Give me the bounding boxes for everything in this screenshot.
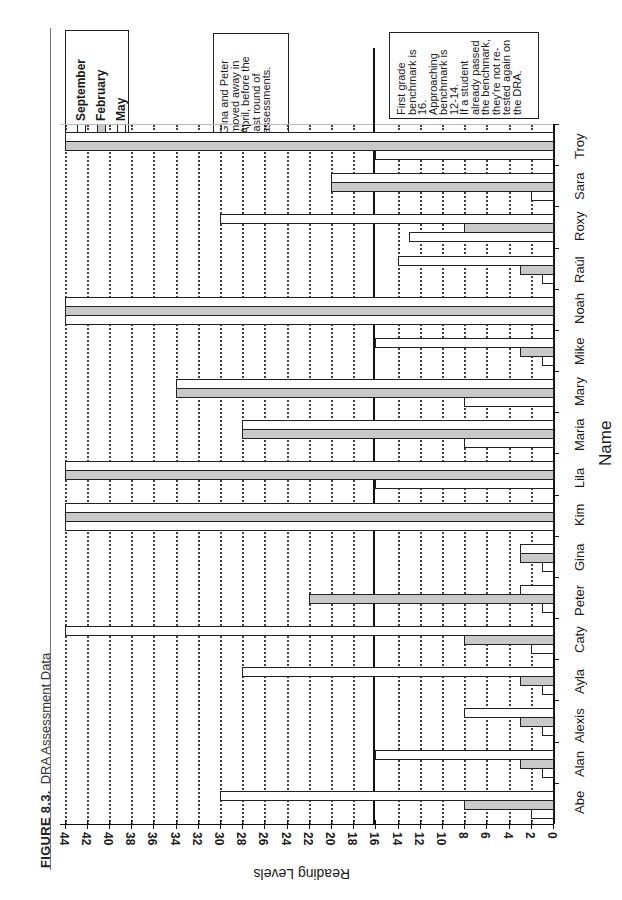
axis-tick: [553, 820, 554, 829]
benchmark-note: First grade benchmark is 16. Approaching…: [389, 32, 539, 119]
axis-tick-label: 24: [279, 832, 293, 845]
axis-tick: [287, 820, 288, 829]
bar-september-raúl: [542, 274, 554, 284]
category-tick: [553, 289, 559, 290]
category-label: Alan: [572, 751, 587, 777]
category-label: Noah: [572, 293, 587, 324]
axis-tick: [176, 820, 177, 829]
category-tick: [553, 206, 559, 207]
category-label: Lila: [572, 468, 587, 488]
axis-tick: [531, 820, 532, 829]
category-tick: [553, 700, 559, 701]
category-label: Peter: [572, 584, 587, 615]
legend-label: February: [94, 70, 108, 121]
value-axis: [60, 824, 553, 825]
figure-label: FIGURE 8.3.: [38, 790, 53, 868]
bar-september-gina: [542, 562, 554, 572]
axis-tick: [464, 820, 465, 829]
axis-tick-label: 2: [523, 832, 537, 839]
bar-september-kim: [65, 521, 554, 531]
category-tick: [553, 412, 559, 413]
axis-tick-label: 38: [123, 832, 137, 845]
figure-title: FIGURE 8.3.DRA Assessment Data: [38, 653, 53, 868]
axis-tick: [353, 820, 354, 829]
bar-september-ayla: [542, 685, 554, 695]
legend-item-september: September: [74, 59, 88, 133]
axis-tick: [65, 820, 66, 829]
category-label: Mike: [572, 337, 587, 364]
category-tick: [553, 371, 559, 372]
category-tick: [553, 618, 559, 619]
bar-september-alexis: [542, 726, 554, 736]
category-tick: [553, 330, 559, 331]
category-label: Troy: [572, 133, 587, 159]
category-tick: [553, 453, 559, 454]
category-tick: [553, 495, 559, 496]
category-label: Mary: [572, 377, 587, 406]
axis-tick: [264, 820, 265, 829]
bar-may-ayla: [242, 667, 554, 677]
bar-february-sara: [331, 182, 554, 192]
bar-september-roxy: [409, 232, 554, 242]
bar-february-peter: [309, 594, 554, 604]
bar-september-mike: [542, 356, 554, 366]
axis-tick: [420, 820, 421, 829]
legend-label: May: [114, 98, 128, 121]
figure-name: DRA Assessment Data: [38, 653, 53, 785]
bar-september-sara: [531, 191, 554, 201]
axis-tick: [109, 820, 110, 829]
bar-september-noah: [65, 315, 554, 325]
axis-tick-label: 40: [101, 832, 115, 845]
bar-september-troy: [375, 150, 554, 160]
axis-tick-label: 4: [501, 832, 515, 839]
category-tick: [553, 165, 559, 166]
category-tick: [553, 783, 559, 784]
axis-tick: [242, 820, 243, 829]
axis-tick: [131, 820, 132, 829]
axis-tick-label: 32: [190, 832, 204, 845]
axis-tick: [153, 820, 154, 829]
axis-tick-label: 18: [345, 832, 359, 845]
bar-september-abe: [531, 809, 554, 819]
axis-tick-label: 14: [390, 832, 404, 845]
category-tick: [553, 659, 559, 660]
category-label: Roxy: [572, 212, 587, 242]
axis-tick-label: 6: [478, 832, 492, 839]
x-axis-title: Name: [596, 421, 616, 466]
axis-tick-label: 36: [145, 832, 159, 845]
axis-tick-label: 44: [57, 832, 71, 845]
benchmark-note-text: First grade benchmark is 16. Approaching…: [396, 39, 522, 115]
category-label: Sara: [572, 173, 587, 200]
category-label: Maria: [572, 418, 587, 451]
bar-september-mary: [464, 397, 554, 407]
axis-tick: [442, 820, 443, 829]
axis-tick: [331, 820, 332, 829]
y-axis-title: Reading Levels: [253, 866, 350, 882]
axis-tick: [375, 820, 376, 829]
category-tick: [553, 248, 559, 249]
axis-tick-label: 10: [434, 832, 448, 845]
category-label: Kim: [572, 504, 587, 526]
axis-tick: [87, 820, 88, 829]
moved-away-note-text: Gina and Peter moved away in April, befo…: [219, 56, 272, 134]
axis-tick-label: 20: [323, 832, 337, 845]
category-label: Raúl: [572, 256, 587, 283]
axis-tick-label: 28: [234, 832, 248, 845]
axis-tick: [486, 820, 487, 829]
bar-september-caty: [531, 644, 554, 654]
category-tick: [553, 124, 559, 125]
category-label: Gina: [572, 543, 587, 570]
category-tick: [553, 742, 559, 743]
axis-tick: [220, 820, 221, 829]
axis-tick: [198, 820, 199, 829]
axis-tick: [309, 820, 310, 829]
category-label: Ayla: [572, 669, 587, 694]
legend-label: September: [74, 59, 88, 121]
axis-tick-label: 34: [168, 832, 182, 845]
bar-september-maria: [464, 438, 554, 448]
category-label: Alexis: [572, 708, 587, 743]
bar-september-alan: [542, 768, 554, 778]
category-tick: [553, 577, 559, 578]
axis-tick-label: 22: [301, 832, 315, 845]
axis-tick-label: 8: [456, 832, 470, 839]
